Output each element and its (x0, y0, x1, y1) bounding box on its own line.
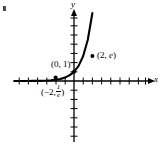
point-label-right-suffix: ) (113, 50, 116, 60)
point-label-left-x-value: −2, (44, 87, 56, 97)
point-label-left-close-paren: ) (61, 87, 64, 97)
exponential-function-graph: y x (0, 1) (2, e) (−2,1e) (0, 0, 161, 146)
x-axis-label: x (154, 75, 158, 84)
y-axis-arrowhead (71, 9, 77, 16)
point-label-right: (2, e) (97, 51, 116, 60)
point-label-left: (−2,1e) (41, 84, 64, 100)
point-label-origin: (0, 1) (51, 60, 71, 69)
exponential-curve (14, 13, 92, 81)
point-marker-right (90, 54, 94, 58)
graph-canvas (0, 0, 161, 146)
y-axis-label: y (71, 0, 75, 9)
point-marker-left (54, 76, 58, 80)
point-label-right-prefix: (2, (97, 50, 109, 60)
point-marker-origin (72, 70, 76, 74)
